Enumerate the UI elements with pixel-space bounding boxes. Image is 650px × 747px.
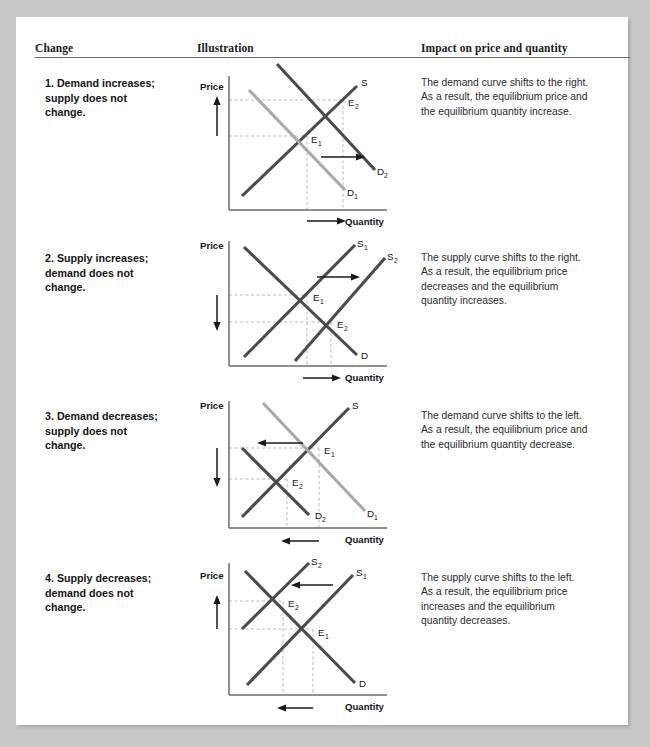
curves: [244, 245, 385, 361]
row-1-illustration: Price Quantity S D 1 D 2 E 1 E 2: [197, 58, 419, 233]
price-direction-arrow-down: [213, 448, 220, 487]
figure-card: Change Illustration Impact on price and …: [16, 17, 628, 725]
label-supply-s2: S: [311, 556, 318, 567]
demand-curve-d1: [263, 403, 365, 511]
label-equilibrium-e2-sub: 2: [295, 604, 299, 611]
label-equilibrium-e1-sub: 1: [325, 633, 329, 640]
guide-lines: [229, 601, 313, 695]
row-4-change-label: 4. Supply decreases; demand does not cha…: [45, 572, 151, 613]
curves: [242, 563, 355, 685]
chart-panel-3: Price Quantity S D 1 D 2 E 1 E 2: [197, 391, 419, 553]
quantity-direction-arrow-left: [281, 537, 319, 544]
column-header-impact: Impact on price and quantity: [419, 42, 630, 57]
row-1-impact-text: The demand curve shifts to the right. As…: [419, 58, 630, 119]
supply-curve-s1: [247, 575, 353, 685]
label-equilibrium-e2-sub: 2: [344, 325, 348, 332]
row-2-change-label: 2. Supply increases; demand does not cha…: [45, 252, 148, 293]
price-direction-arrow-down: [213, 295, 220, 331]
table-row: 4. Supply decreases; demand does not cha…: [35, 553, 630, 723]
label-equilibrium-e2: E: [337, 319, 343, 330]
label-equilibrium-e2-sub: 2: [299, 483, 303, 490]
label-supply-s: S: [352, 400, 359, 411]
quantity-axis-label: Quantity: [345, 216, 385, 227]
supply-shift-arrow-right: [317, 273, 360, 280]
label-supply-s1-sub: 1: [363, 573, 367, 580]
row-1-change-label: 1. Demand increases; supply does not cha…: [45, 77, 155, 118]
chart-panel-4: Price Quantity S 2 S 1 D E 2 E 1: [197, 553, 419, 723]
comparison-table: Change Illustration Impact on price and …: [35, 35, 630, 723]
label-equilibrium-e2: E: [288, 598, 294, 609]
label-demand-d2-sub: 2: [384, 172, 388, 179]
demand-shift-arrow-right: [321, 153, 365, 160]
label-equilibrium-e1: E: [313, 292, 319, 303]
row-3-impact-text: The demand curve shifts to the left. As …: [419, 391, 630, 452]
demand-shift-arrow-left: [257, 439, 303, 446]
label-demand-d1-sub: 1: [354, 193, 358, 200]
price-axis-label: Price: [200, 400, 223, 411]
table-row: 1. Demand increases; supply does not cha…: [35, 58, 630, 233]
label-equilibrium-e1: E: [311, 134, 317, 145]
price-axis-label: Price: [200, 81, 223, 92]
label-demand-d: D: [359, 678, 366, 689]
label-demand-d1-sub: 1: [374, 514, 378, 521]
quantity-axis-label: Quantity: [345, 701, 385, 712]
price-direction-arrow-up: [213, 595, 220, 629]
table-row: 3. Demand decreases; supply does not cha…: [35, 391, 630, 553]
label-equilibrium-e2-sub: 2: [355, 103, 359, 110]
supply-shift-arrow-left: [291, 581, 333, 588]
row-4-illustration: Price Quantity S 2 S 1 D E 2 E 1: [197, 553, 419, 723]
label-equilibrium-e1-sub: 1: [318, 140, 322, 147]
price-direction-arrow-up: [213, 96, 220, 136]
label-supply-s1-sub: 1: [364, 244, 368, 251]
table-row: 2. Supply increases; demand does not cha…: [35, 233, 630, 391]
row-4-impact-text: The supply curve shifts to the left. As …: [419, 553, 630, 629]
curves: [242, 64, 375, 196]
quantity-direction-arrow-right: [307, 217, 346, 224]
label-equilibrium-e2: E: [348, 97, 354, 108]
column-header-illustration: Illustration: [197, 42, 419, 57]
chart-panel-2: Price Quantity S 1 S 2 D E 1 E 2: [197, 233, 419, 391]
supply-curve-s2: [242, 563, 309, 629]
row-4-change-text: 4. Supply decreases; demand does not cha…: [35, 553, 197, 615]
curves: [242, 403, 365, 517]
label-supply-s: S: [361, 77, 368, 88]
label-equilibrium-e1-sub: 1: [331, 451, 335, 458]
row-3-illustration: Price Quantity S D 1 D 2 E 1 E 2: [197, 391, 419, 553]
row-3-change-text: 3. Demand decreases; supply does not cha…: [35, 391, 197, 453]
label-supply-s2: S: [387, 251, 394, 262]
row-2-change-text: 2. Supply increases; demand does not cha…: [35, 233, 197, 295]
label-equilibrium-e2: E: [292, 477, 298, 488]
quantity-axis-label: Quantity: [345, 534, 385, 545]
chart-panel-1: Price Quantity S D 1 D 2 E 1 E 2: [197, 58, 419, 233]
table-header-row: Change Illustration Impact on price and …: [35, 35, 630, 58]
label-supply-s2-sub: 2: [318, 562, 322, 569]
row-1-change-text: 1. Demand increases; supply does not cha…: [35, 58, 197, 120]
price-axis-label: Price: [200, 570, 223, 581]
quantity-direction-arrow-right: [303, 374, 341, 381]
row-2-impact-text: The supply curve shifts to the right. As…: [419, 233, 630, 309]
label-supply-s1: S: [356, 567, 363, 578]
price-axis-label: Price: [200, 240, 223, 251]
label-demand-d: D: [361, 350, 368, 361]
label-demand-d2-sub: 2: [322, 516, 326, 523]
label-equilibrium-e1: E: [318, 627, 324, 638]
quantity-axis-label: Quantity: [345, 372, 385, 383]
label-equilibrium-e1-sub: 1: [320, 298, 324, 305]
row-2-illustration: Price Quantity S 1 S 2 D E 1 E 2: [197, 233, 419, 391]
label-equilibrium-e1: E: [324, 445, 330, 456]
label-supply-s1: S: [357, 238, 364, 249]
column-header-change: Change: [35, 42, 197, 57]
label-supply-s2-sub: 2: [394, 257, 398, 264]
quantity-direction-arrow-left: [277, 704, 313, 711]
row-3-change-label: 3. Demand decreases; supply does not cha…: [45, 410, 158, 451]
